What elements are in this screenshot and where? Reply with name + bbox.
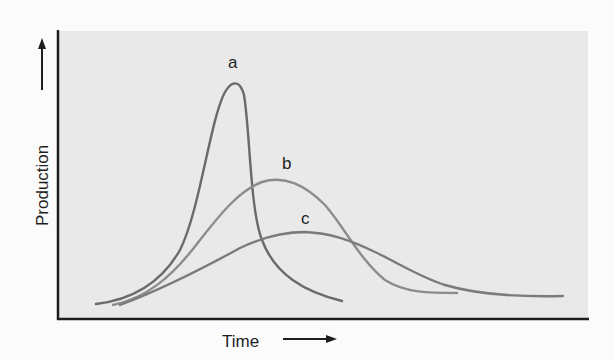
y-axis-title: Production	[33, 145, 52, 226]
curve-label-c: c	[301, 209, 310, 228]
x-axis-arrow-icon	[283, 335, 337, 343]
curve-label-b: b	[282, 154, 291, 173]
y-axis-arrow-icon	[38, 38, 46, 90]
plot-area	[58, 31, 588, 319]
chart-figure: a b c Time Production	[0, 0, 614, 360]
curve-label-a: a	[228, 53, 238, 72]
x-axis-title: Time	[222, 332, 259, 351]
chart-canvas: a b c Time Production	[0, 0, 614, 360]
